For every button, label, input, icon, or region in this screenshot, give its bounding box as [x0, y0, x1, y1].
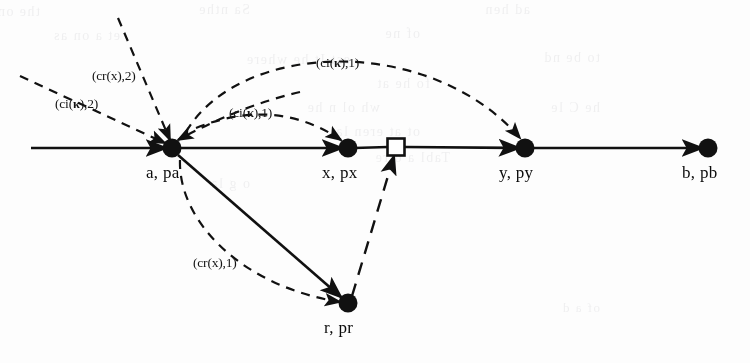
node-square-marker[interactable]: [388, 139, 405, 156]
edge-crx1-a-to-r: [180, 160, 340, 302]
kappa-glyph: κ: [334, 56, 341, 70]
edge-label-cr-x-1: (cr(x),1): [193, 255, 237, 271]
node-label-x: x, px: [322, 163, 358, 183]
edge-label-ci-kappa-1-arc: (ci(κ),1): [316, 55, 359, 71]
edge-r-to-square: [352, 156, 394, 296]
edge-x-to-square: [354, 147, 388, 148]
node-y-marker[interactable]: [516, 139, 535, 158]
kappa-glyph: κ: [73, 97, 80, 111]
figure-canvas: the one of themSa nthead henet a on asof…: [0, 0, 750, 363]
node-label-r: r, pr: [324, 318, 353, 338]
edge-label-cr-x-2: (cr(x),2): [92, 68, 136, 84]
edge-label-ci-kappa-2: (ci(κ),2): [55, 96, 98, 112]
edge-label-ci-kappa-1-short: (ci(κ),1): [229, 105, 272, 121]
node-x-marker[interactable]: [339, 139, 358, 158]
node-a-marker[interactable]: [163, 139, 182, 158]
node-r-marker[interactable]: [339, 294, 358, 313]
node-markers: [163, 139, 718, 313]
edge-cik1-a-to-y: [186, 62, 520, 139]
node-label-a: a, pa: [146, 163, 180, 183]
diagram-svg: [0, 0, 750, 363]
edge-square-to-y: [405, 147, 519, 148]
node-label-y: y, py: [499, 163, 533, 183]
node-label-b: b, pb: [682, 163, 718, 183]
node-b-marker[interactable]: [699, 139, 718, 158]
kappa-glyph: κ: [247, 106, 254, 120]
main-timeline-edges: [31, 147, 702, 148]
